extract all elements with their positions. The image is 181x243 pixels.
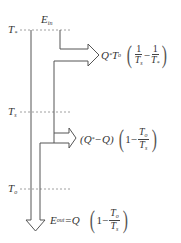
branch2-pipe-outer [54,61,69,133]
branch1-arrowhead [88,44,99,66]
branch2-pipe-lower [40,143,69,153]
e-in-label: Ein [41,14,52,26]
t-s-label: Ts [8,106,16,118]
branch1-pipe-outer [60,30,88,49]
e-out-formula: Eout=Q ( 1 − To Ts ) [50,207,129,233]
branch2-formula: (Q*−Q) ( 1 − To Ts ) [80,126,158,152]
t-star-label: T* [8,24,17,36]
branch2-arrowhead [69,128,76,148]
t-0-label: To [8,183,17,195]
branch1-formula: Q* To ( 1 Ts − 1 T* ) [101,42,169,68]
main-arrowhead [26,220,45,231]
